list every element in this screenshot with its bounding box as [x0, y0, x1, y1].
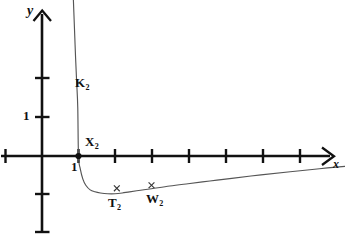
x-axis-group: [1, 148, 334, 166]
point-label-x2: X2: [85, 135, 99, 151]
curve-label-k2-base: K: [75, 75, 85, 90]
point-label-t2: T2: [108, 196, 121, 212]
function-graph-figure: y x 1 1 K2 X2 T2 W2: [0, 0, 345, 239]
y-axis-group: [34, 11, 52, 234]
point-label-w2-sub: 2: [159, 199, 163, 208]
point-label-x2-sub: 2: [95, 142, 99, 151]
point-label-t2-base: T: [108, 195, 117, 210]
x-axis-label: x: [333, 158, 339, 170]
curve-label-k2: K2: [75, 76, 89, 92]
point-label-w2-base: W: [146, 191, 159, 206]
point-label-x2-base: X: [85, 134, 94, 149]
point-label-w2: W2: [146, 192, 163, 208]
plot-canvas: [0, 0, 345, 239]
function-curve: [73, 0, 345, 194]
curve-label-k2-sub: 2: [85, 83, 89, 92]
y-tick-label-1: 1: [23, 109, 30, 122]
y-axis-label: y: [27, 4, 33, 18]
x-tick-label-1: 1: [71, 160, 78, 173]
point-label-t2-sub: 2: [117, 203, 121, 212]
point-marker-t2: [114, 185, 120, 191]
point-marker-w2: [149, 182, 155, 188]
